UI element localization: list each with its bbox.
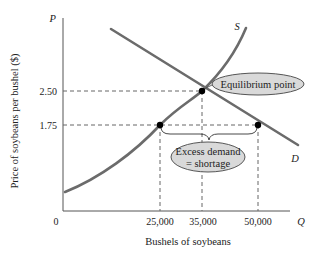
shortage-label-line1: Excess demand bbox=[175, 146, 241, 157]
y-tick-175: 1.75 bbox=[40, 120, 58, 131]
y-tick-250: 2.50 bbox=[40, 86, 58, 97]
shortage-label-line2: = shortage bbox=[186, 158, 230, 169]
demand-point-175 bbox=[255, 122, 261, 128]
x-tick-35000: 35,000 bbox=[189, 216, 217, 227]
x-tick-50000: 50,000 bbox=[244, 216, 272, 227]
demand-curve-label: D bbox=[290, 153, 299, 164]
supply-demand-chart: Equilibrium point Excess demand = shorta… bbox=[0, 0, 320, 261]
x-axis-title: Bushels of soybeans bbox=[145, 236, 231, 247]
equilibrium-point bbox=[199, 88, 205, 94]
y-axis-title: Price of soybeans per bushel ($) bbox=[9, 53, 21, 189]
supply-point-175 bbox=[157, 122, 163, 128]
equilibrium-label: Equilibrium point bbox=[221, 79, 296, 90]
origin-label: 0 bbox=[54, 216, 59, 227]
y-axis-symbol: P bbox=[49, 13, 57, 24]
x-tick-25000: 25,000 bbox=[146, 216, 174, 227]
x-axis-symbol: Q bbox=[297, 216, 305, 227]
shortage-brace bbox=[161, 127, 257, 140]
supply-curve-label: S bbox=[234, 21, 240, 32]
